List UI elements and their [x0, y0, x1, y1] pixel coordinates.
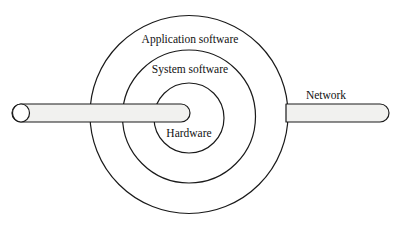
- right-network-pipe: [286, 104, 389, 122]
- label-system-software: System software: [152, 63, 228, 76]
- label-hardware: Hardware: [166, 127, 211, 139]
- concentric-layer-diagram: Application software System software Har…: [0, 0, 401, 231]
- label-network: Network: [306, 89, 346, 101]
- left-network-pipe: [12, 104, 190, 122]
- label-application-software: Application software: [142, 33, 239, 46]
- diagram-canvas: Application software System software Har…: [0, 0, 401, 231]
- left-pipe-open-end: [13, 104, 30, 122]
